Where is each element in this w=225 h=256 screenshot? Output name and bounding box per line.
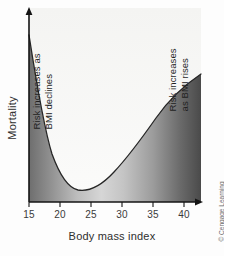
copyright-credit: © Cengage Learning: [218, 162, 225, 242]
left-annotation-line-2: BMI declines: [42, 30, 54, 130]
x-axis-title: Body mass index: [0, 230, 224, 242]
x-tick-label-40: 40: [172, 209, 196, 220]
right-annotation-line-1: Risk increases: [167, 12, 179, 112]
y-axis-title: Mortality: [6, 88, 18, 148]
x-tick-label-20: 20: [48, 209, 72, 220]
left-annotation-line-1: Risk increases as: [31, 30, 43, 130]
x-tick-label-25: 25: [79, 209, 103, 220]
mortality-bmi-figure: 15 20 25 30 35 40 Body mass index Mortal…: [0, 0, 224, 256]
x-tick-label-30: 30: [110, 209, 134, 220]
left-annotation: Risk increases as BMI declines: [31, 30, 54, 130]
x-tick-label-35: 35: [141, 209, 165, 220]
right-annotation: Risk increases as BMI rises: [167, 12, 190, 112]
right-annotation-line-2: as BMI rises: [178, 12, 190, 112]
x-tick-label-15: 15: [17, 209, 41, 220]
